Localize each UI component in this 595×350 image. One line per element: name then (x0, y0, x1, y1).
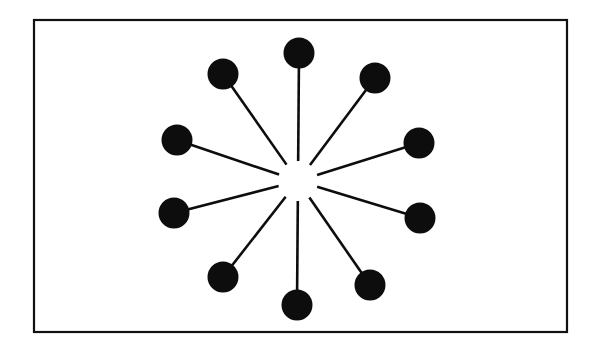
figure-canvas (0, 0, 595, 350)
node-dot-wsw (159, 198, 190, 229)
node-dot-ese (405, 203, 436, 234)
node-dot-s (282, 290, 313, 321)
node-dot-n (284, 38, 315, 69)
node-dot-nne (360, 63, 391, 94)
node-dot-nnw (208, 59, 239, 90)
radial-spoke-diagram (0, 0, 595, 350)
node-dot-sse (355, 270, 386, 301)
spoke-line-n (298, 53, 299, 161)
node-dot-ssw (208, 262, 239, 293)
spoke-line-s (297, 201, 298, 305)
node-dot-wnw (162, 125, 193, 156)
node-dot-ene (404, 128, 435, 159)
